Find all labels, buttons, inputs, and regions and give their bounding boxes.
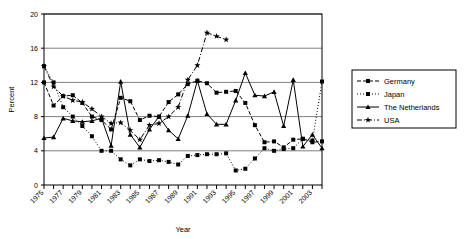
data-point-star (223, 36, 229, 42)
x-tick-label: 2003 (297, 189, 313, 205)
y-axis-title: Percent (7, 86, 16, 113)
data-point-square (234, 168, 238, 172)
data-point-square (195, 153, 199, 157)
data-point-square (71, 115, 75, 119)
data-point-square (272, 139, 276, 143)
data-point-triangle (109, 143, 114, 148)
y-tick-label: 20 (30, 11, 38, 18)
data-point-square (262, 140, 266, 144)
x-tick-label: 1977 (48, 189, 64, 205)
chart-figure: 0481216201975197719791981198319851987198… (0, 0, 468, 239)
data-point-square (186, 154, 190, 158)
data-point-triangle (233, 98, 238, 103)
data-point-triangle (185, 113, 190, 118)
data-point-square (90, 115, 94, 119)
data-point-square (205, 152, 209, 156)
data-point-square (310, 139, 314, 143)
data-point-square (157, 158, 161, 162)
x-tick-label: 1981 (86, 189, 102, 205)
legend-label-japan: Japan (384, 90, 404, 99)
legend-marker-square (366, 92, 370, 96)
data-point-star (51, 83, 57, 89)
y-tick-label: 16 (30, 45, 38, 52)
y-tick-label: 12 (30, 79, 38, 86)
data-point-square (80, 124, 84, 128)
x-tick-label: 1991 (182, 189, 198, 205)
data-point-star (204, 30, 210, 36)
plot-frame (44, 14, 322, 185)
data-point-square (71, 93, 75, 97)
data-point-square (42, 80, 46, 84)
x-tick-label: 1999 (259, 189, 275, 205)
data-point-triangle (271, 89, 276, 94)
legend-marker-square (366, 79, 370, 83)
data-point-square (176, 92, 180, 96)
data-point-square (320, 80, 324, 84)
data-point-square (243, 167, 247, 171)
data-point-square (205, 81, 209, 85)
data-point-star (214, 33, 220, 39)
data-point-square (90, 134, 94, 138)
data-point-square (234, 89, 238, 93)
data-point-square (215, 91, 219, 95)
data-point-square (262, 146, 266, 150)
x-tick-label: 1979 (67, 189, 83, 205)
x-tick-label: 1993 (201, 189, 217, 205)
data-point-square (119, 96, 123, 100)
data-point-square (224, 151, 228, 155)
data-point-star (70, 97, 76, 103)
data-point-square (147, 159, 151, 163)
data-point-square (100, 149, 104, 153)
data-point-square (282, 147, 286, 151)
x-tick-label: 1987 (144, 189, 160, 205)
data-point-square (167, 100, 171, 104)
data-point-square (109, 149, 113, 153)
data-point-square (243, 101, 247, 105)
x-tick-label: 1989 (163, 189, 179, 205)
data-point-triangle (204, 111, 209, 116)
data-point-square (109, 127, 113, 131)
y-tick-label: 8 (34, 113, 38, 120)
series-line-the-netherlands (44, 73, 322, 148)
legend-label-the-netherlands: The Netherlands (384, 103, 440, 112)
data-point-square (119, 157, 123, 161)
data-point-star (194, 62, 200, 68)
data-point-square (272, 149, 276, 153)
data-point-square (61, 105, 65, 109)
data-point-square (138, 118, 142, 122)
data-point-triangle (291, 77, 296, 82)
data-point-triangle (310, 132, 315, 137)
data-point-square (253, 156, 257, 160)
x-axis-title: Year (175, 225, 191, 234)
legend-label-germany: Germany (384, 77, 415, 86)
series-line-japan (44, 66, 322, 170)
data-point-square (291, 146, 295, 150)
legend-label-usa: USA (384, 116, 399, 125)
x-tick-label: 1983 (105, 189, 121, 205)
data-point-square (215, 152, 219, 156)
data-point-square (176, 162, 180, 166)
x-tick-label: 1985 (125, 189, 141, 205)
data-point-square (167, 160, 171, 164)
data-point-star (156, 120, 162, 126)
data-point-triangle (243, 70, 248, 75)
data-point-square (253, 123, 257, 127)
x-tick-label: 2001 (278, 189, 294, 205)
data-point-square (147, 114, 151, 118)
line-chart: 0481216201975197719791981198319851987198… (0, 0, 468, 239)
data-point-square (224, 90, 228, 94)
x-tick-label: 1995 (220, 189, 236, 205)
data-point-square (52, 103, 56, 107)
data-point-square (320, 139, 324, 143)
x-tick-label: 1975 (29, 189, 45, 205)
data-point-square (128, 99, 132, 103)
data-point-triangle (118, 79, 123, 84)
data-point-square (138, 157, 142, 161)
data-point-square (128, 163, 132, 167)
y-tick-label: 4 (34, 147, 38, 154)
data-point-square (291, 138, 295, 142)
x-tick-label: 1997 (240, 189, 256, 205)
data-point-triangle (281, 123, 286, 128)
y-tick-label: 0 (34, 182, 38, 189)
